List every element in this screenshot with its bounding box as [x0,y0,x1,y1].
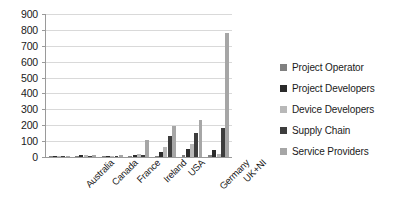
x-axis-tick-label: Australia [84,157,117,190]
bar [225,33,229,157]
y-axis-tick [42,62,46,63]
legend-swatch-icon [280,106,287,113]
y-axis-tick-label: 200 [21,120,38,130]
y-axis-tick-label: 800 [21,25,38,35]
legend-item[interactable]: Service Providers [280,141,404,162]
legend-swatch-icon [280,85,287,92]
y-axis-tick [42,78,46,79]
bar-group [102,14,123,157]
legend-swatch-icon [280,64,287,71]
y-axis-tick [42,141,46,142]
y-axis-tick-label: 600 [21,57,38,67]
y-axis: 9008007006005004003002001000 [0,0,44,170]
legend-item[interactable]: Project Developers [280,78,404,99]
y-axis-tick-label: 0 [32,152,38,162]
y-axis-tick [42,46,46,47]
legend-item[interactable]: Supply Chain [280,120,404,141]
legend-item[interactable]: Device Developers [280,99,404,120]
bar [172,126,176,157]
legend-label: Supply Chain [292,125,350,136]
bar [145,140,149,157]
legend-label: Device Developers [292,104,374,115]
y-axis-tick [42,109,46,110]
legend-label: Project Developers [292,83,375,94]
y-axis-tick-label: 500 [21,73,38,83]
bar-group [49,14,70,157]
x-axis-tick-label: USA [185,157,206,178]
y-axis-tick-label: 900 [21,9,38,19]
legend-swatch-icon [280,148,287,155]
legend-label: Project Operator [292,62,364,73]
bar-group [182,14,203,157]
y-axis-tick [42,93,46,94]
bar [199,120,203,157]
legend-swatch-icon [280,127,287,134]
legend-label: Service Providers [292,146,369,157]
y-axis-tick [42,30,46,31]
legend-item[interactable]: Project Operator [280,57,404,78]
bar-group [128,14,149,157]
x-axis-tick-label: Ireland [161,157,188,184]
bar-chart: 9008007006005004003002001000 AustraliaCa… [0,0,406,217]
bar-group [155,14,176,157]
y-axis-tick-label: 100 [21,136,38,146]
chart-legend: Project OperatorProject DevelopersDevice… [280,57,404,162]
x-axis-tick-label: Canada [109,157,139,187]
plot-area [46,14,232,157]
x-axis-tick-label: France [135,157,163,185]
y-axis-tick-label: 400 [21,88,38,98]
x-axis: AustraliaCanadaFranceIrelandUSAGermanyUK… [46,157,246,217]
y-axis-tick-label: 300 [21,104,38,114]
bar-group [75,14,96,157]
y-axis-tick-label: 700 [21,41,38,51]
y-axis-tick [42,125,46,126]
bar-group [208,14,229,157]
y-axis-tick [42,14,46,15]
bars-layer [46,14,232,157]
